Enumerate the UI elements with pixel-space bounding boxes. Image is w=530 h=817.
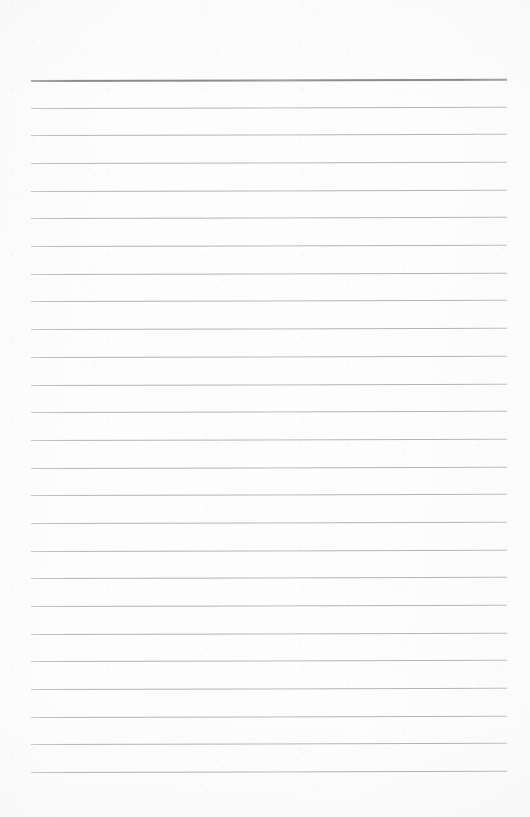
ruled-line [31, 134, 507, 136]
ruled-line [31, 328, 507, 330]
ruled-line-header [31, 79, 507, 82]
ruled-line [31, 162, 507, 164]
ruled-line [31, 190, 507, 192]
ruled-line [31, 273, 507, 275]
ruled-line [31, 605, 507, 607]
ruled-line [31, 771, 507, 773]
ruled-line [31, 217, 507, 219]
ruled-line [31, 522, 507, 524]
ruled-line [31, 688, 507, 690]
ruled-line [31, 660, 507, 662]
ruled-line [31, 300, 507, 302]
ruled-line [31, 494, 507, 496]
ruled-line [31, 743, 507, 745]
ruled-line [31, 577, 507, 579]
ruled-line [31, 384, 507, 386]
ruled-line [31, 633, 507, 635]
ruled-line [31, 411, 507, 413]
ruled-line [31, 107, 507, 109]
ruled-lines-group [0, 0, 530, 817]
ruled-line [31, 356, 507, 358]
ruled-line [31, 467, 507, 469]
ruled-line [31, 439, 507, 441]
scanned-page [0, 0, 530, 817]
ruled-line [31, 245, 507, 247]
ruled-line [31, 550, 507, 552]
ruled-line [31, 716, 507, 718]
